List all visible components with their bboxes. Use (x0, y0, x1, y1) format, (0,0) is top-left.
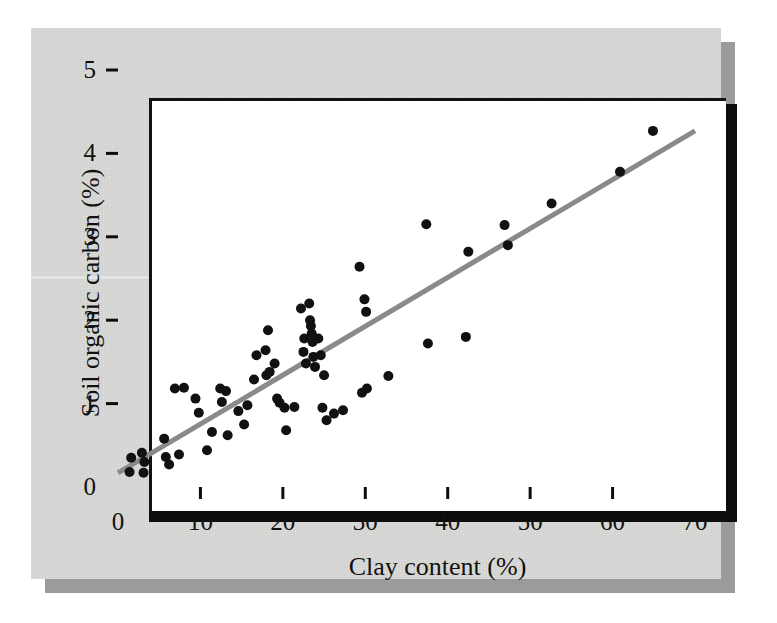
data-point (265, 367, 275, 377)
data-point (125, 467, 135, 477)
data-point (159, 434, 169, 444)
data-point (170, 384, 180, 394)
data-point (280, 403, 290, 413)
regression-line (118, 131, 695, 473)
data-point (503, 240, 513, 250)
data-point (313, 334, 323, 344)
figure-page: 012345 010203040506070 Clay content (%) … (31, 28, 721, 579)
data-point (221, 386, 231, 396)
data-point (261, 345, 271, 355)
data-point (137, 448, 147, 458)
data-point (463, 247, 473, 257)
x-tick-label: 20 (263, 509, 303, 534)
trend-line (118, 131, 695, 473)
data-point (329, 409, 339, 419)
data-point (217, 397, 227, 407)
data-point (249, 374, 259, 384)
data-points (125, 126, 658, 478)
data-point (317, 403, 327, 413)
data-point (202, 445, 212, 455)
y-tick-label: 5 (66, 57, 96, 82)
data-point (251, 350, 261, 360)
data-point (233, 406, 243, 416)
data-point (270, 359, 280, 369)
data-point (355, 262, 365, 272)
y-tick-label: 0 (66, 474, 96, 499)
x-tick-label: 60 (593, 509, 633, 534)
data-point (421, 219, 431, 229)
data-point (242, 400, 252, 410)
data-point (174, 449, 184, 459)
data-point (164, 459, 174, 469)
data-point (322, 415, 332, 425)
data-point (139, 457, 149, 467)
data-point (289, 402, 299, 412)
y-axis-title: Soil organic carbon (%) (76, 123, 106, 463)
data-point (319, 370, 329, 380)
data-point (615, 167, 625, 177)
data-point (423, 339, 433, 349)
x-tick-label: 50 (510, 509, 550, 534)
data-point (179, 383, 189, 393)
data-point (304, 299, 314, 309)
data-point (359, 294, 369, 304)
data-point (239, 419, 249, 429)
data-point (547, 198, 557, 208)
data-point (301, 359, 311, 369)
x-axis-title: Clay content (%) (149, 552, 726, 582)
chart-canvas (31, 28, 721, 579)
x-tick-label: 30 (345, 509, 385, 534)
data-point (194, 408, 204, 418)
x-tick-label: 70 (675, 509, 715, 534)
data-point (338, 405, 348, 415)
data-point (362, 384, 372, 394)
data-point (223, 430, 233, 440)
data-point (500, 220, 510, 230)
data-point (361, 307, 371, 317)
data-point (263, 325, 273, 335)
data-point (207, 427, 217, 437)
x-tick-label: 0 (98, 509, 138, 534)
y-axis-right-bar (726, 104, 737, 522)
data-point (648, 126, 658, 136)
data-point (461, 332, 471, 342)
data-point (281, 425, 291, 435)
data-point (310, 362, 320, 372)
data-point (126, 453, 136, 463)
data-point (298, 347, 308, 357)
x-tick-label: 10 (180, 509, 220, 534)
data-point (190, 394, 200, 404)
data-point (383, 371, 393, 381)
x-tick-label: 40 (428, 509, 468, 534)
data-point (316, 350, 326, 360)
data-point (139, 468, 149, 478)
